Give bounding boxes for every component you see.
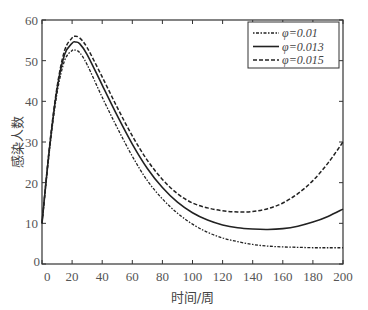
x-axis-label: 时间/周 [171,290,214,305]
x-tick-label: 80 [156,269,169,284]
x-tick-label: 100 [183,269,203,284]
y-tick-label: 40 [25,94,38,109]
x-tick-label: 60 [126,269,139,284]
x-tick-label: 180 [303,269,323,284]
x-tick-label: 140 [243,269,263,284]
legend-label-1: φ=0.013 [282,40,324,54]
y-tick-label: 10 [25,216,38,231]
series-line-0 [42,49,343,247]
series-line-1 [42,42,343,230]
x-tick-label: 40 [96,269,109,284]
y-tick-label: 20 [25,176,38,191]
legend-label-2: φ=0.015 [282,53,324,67]
y-tick-label: 50 [25,54,38,69]
x-tick-label: 0 [44,269,51,284]
line-chart: 0204060801001201401601802000102030405060… [0,0,368,310]
legend-label-0: φ=0.01 [282,26,318,40]
x-tick-label: 200 [333,269,353,284]
y-tick-label: 30 [25,135,38,150]
y-axis-label: 感染人数 [10,116,25,168]
x-tick-label: 120 [213,269,233,284]
y-tick-label: 0 [34,254,41,269]
x-tick-label: 20 [66,269,79,284]
x-tick-label: 160 [273,269,293,284]
y-tick-label: 60 [25,13,38,28]
